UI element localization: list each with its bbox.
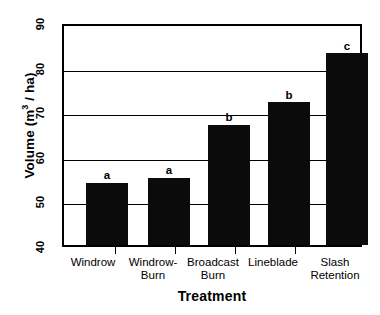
y-tick-label-40: 40 [34, 232, 46, 262]
x-tick-label-slash-retention-line1: Slash [297, 256, 373, 269]
x-tick-mark-3 [235, 247, 236, 254]
y-axis-title-exponent: 3 [20, 105, 30, 110]
x-tick-label-slash-retention-line2: Retention [297, 269, 373, 282]
bar-slash-retention [326, 53, 368, 245]
bar-annotation-slash-retention: c [326, 40, 368, 52]
bar-lineblade [268, 102, 310, 245]
x-axis-title: Treatment [62, 288, 362, 304]
y-tick-label-50: 50 [34, 187, 46, 217]
y-tick-label-60: 60 [34, 143, 46, 173]
x-tick-label-slash-retention: Slash Retention [297, 256, 373, 282]
y-tick-label-80: 80 [34, 54, 46, 84]
x-tick-mark-2 [175, 247, 176, 254]
y-tick-label-90: 90 [34, 9, 46, 39]
bar-annotation-lineblade: b [268, 89, 310, 101]
x-tick-label-broadcast-burn-line2: Burn [177, 269, 249, 282]
bar-windrow [86, 183, 128, 245]
bar-broadcast-burn [208, 125, 250, 245]
gridline-80 [64, 71, 360, 72]
bar-chart-figure: Volume (m3 / ha) 40 50 60 70 80 90 a a b… [0, 0, 380, 315]
x-tick-mark-1 [115, 247, 116, 254]
bar-annotation-windrow: a [86, 169, 128, 181]
bar-windrow-burn [148, 178, 190, 245]
x-tick-mark-4 [295, 247, 296, 254]
bar-annotation-windrow-burn: a [148, 164, 190, 176]
plot-area: a a b b c [62, 24, 362, 247]
bar-annotation-broadcast-burn: b [208, 111, 250, 123]
y-tick-label-70: 70 [34, 98, 46, 128]
